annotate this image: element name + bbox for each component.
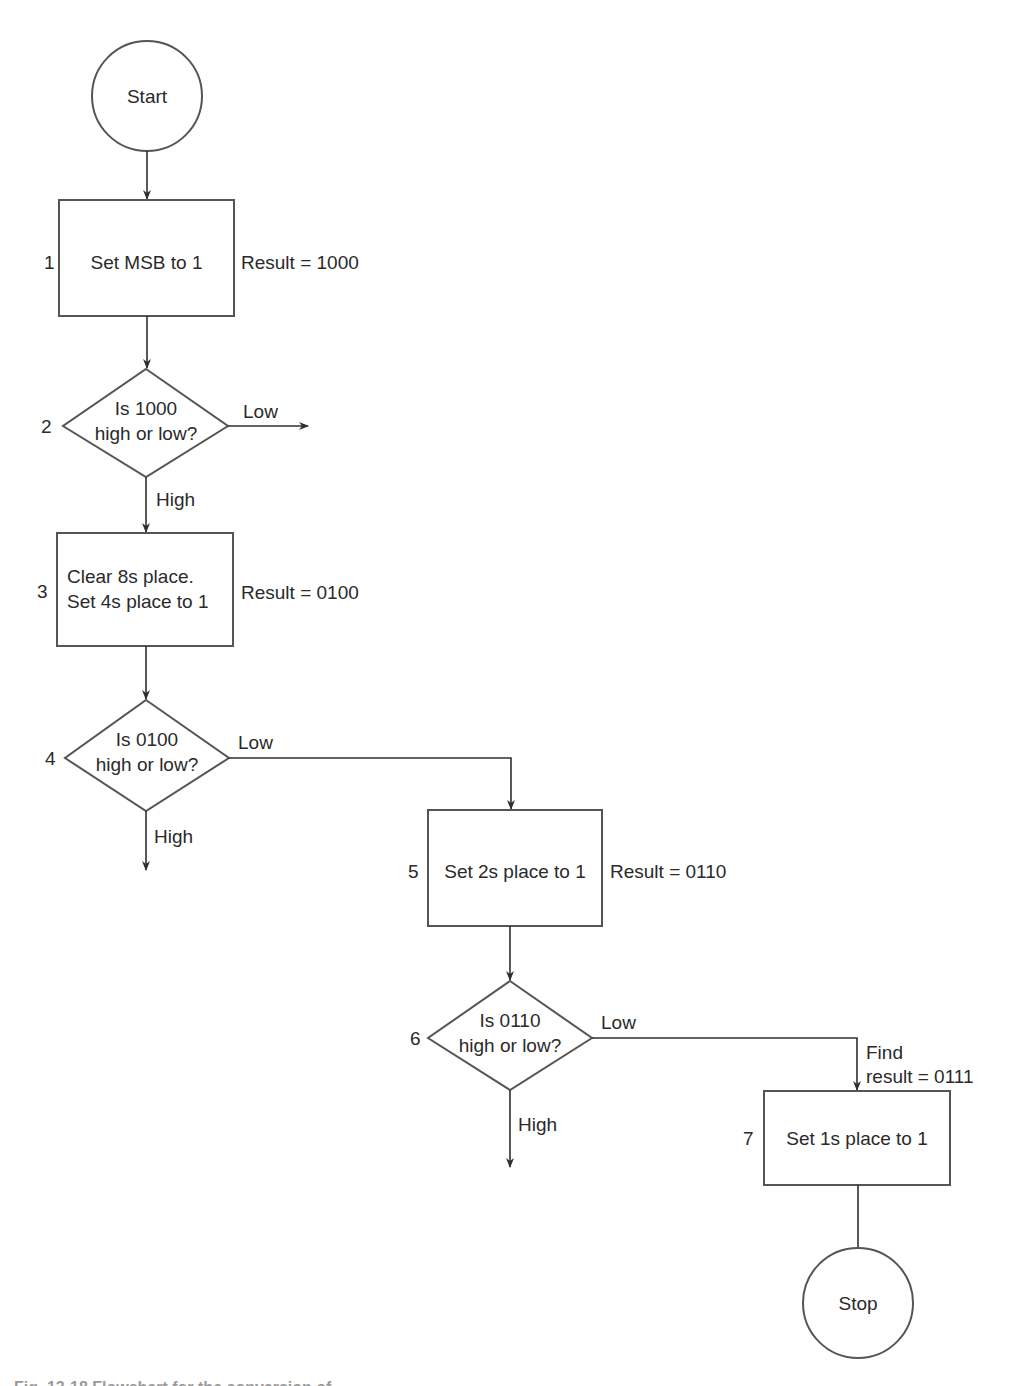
step-6-text-line-2: high or low? bbox=[450, 1033, 570, 1058]
start-label: Start bbox=[92, 84, 202, 109]
step-6-low-label: Low bbox=[601, 1010, 636, 1035]
connector-step-6-low-to-step-7 bbox=[592, 1038, 857, 1090]
step-4-high-label: High bbox=[154, 824, 193, 849]
step-4-number: 4 bbox=[45, 746, 56, 771]
step-5-number: 5 bbox=[408, 859, 419, 884]
connector-step-4-low-to-step-5 bbox=[229, 758, 511, 809]
step-2-high-label: High bbox=[156, 487, 195, 512]
step-2-number: 2 bbox=[41, 414, 52, 439]
step-7-find-note-line-2: result = 0111 bbox=[866, 1064, 974, 1089]
step-3-number: 3 bbox=[37, 579, 48, 604]
step-7-text: Set 1s place to 1 bbox=[764, 1126, 950, 1151]
step-4-text-line-1: Is 0100 bbox=[87, 727, 207, 752]
step-1-number: 1 bbox=[44, 250, 55, 275]
figure-caption: Fig. 13-18 Flowchart for the conversion … bbox=[14, 1378, 349, 1386]
step-6-number: 6 bbox=[410, 1026, 421, 1051]
step-3-text-line-2: Set 4s place to 1 bbox=[67, 589, 209, 614]
step-1-result-note: Result = 1000 bbox=[241, 250, 359, 275]
step-4-text-line-2: high or low? bbox=[87, 752, 207, 777]
step-6-high-label: High bbox=[518, 1112, 557, 1137]
step-5-text: Set 2s place to 1 bbox=[428, 859, 602, 884]
stop-label: Stop bbox=[803, 1291, 913, 1316]
step-4-low-label: Low bbox=[238, 730, 273, 755]
step-7-number: 7 bbox=[743, 1126, 754, 1151]
flowchart-canvas bbox=[0, 0, 1027, 1386]
step-2-text-line-2: high or low? bbox=[86, 421, 206, 446]
step-7-find-note-line-1: Find bbox=[866, 1040, 903, 1065]
step-6-text-line-1: Is 0110 bbox=[450, 1008, 570, 1033]
step-1-text: Set MSB to 1 bbox=[59, 250, 234, 275]
step-3-text-line-1: Clear 8s place. bbox=[67, 564, 194, 589]
step-2-low-label: Low bbox=[243, 399, 278, 424]
step-2-text-line-1: Is 1000 bbox=[86, 396, 206, 421]
step-5-result-note: Result = 0110 bbox=[610, 859, 726, 884]
step-3-result-note: Result = 0100 bbox=[241, 580, 359, 605]
